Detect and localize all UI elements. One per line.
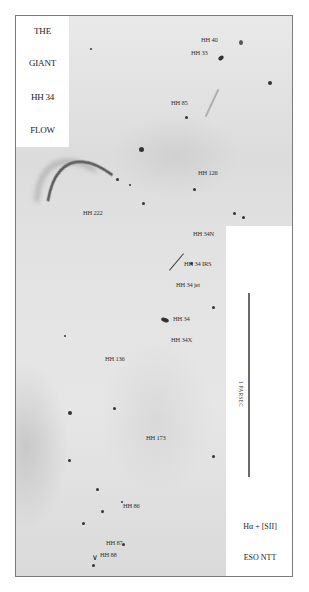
star	[116, 178, 119, 181]
label-hh40: HH 40	[201, 36, 218, 43]
star	[92, 564, 95, 567]
star	[68, 411, 72, 415]
star	[233, 212, 236, 215]
title-line-2: GIANT	[16, 58, 69, 68]
star	[212, 306, 215, 309]
telescope-label: ESO NTT	[226, 553, 293, 562]
star	[113, 407, 116, 410]
label-hh136: HH 136	[105, 355, 125, 362]
star	[242, 216, 245, 219]
star	[142, 202, 145, 205]
label-hh34: HH 34	[173, 315, 190, 322]
star	[193, 188, 196, 191]
star	[96, 488, 99, 491]
hh87-chevron: ∨	[92, 553, 98, 562]
star	[268, 81, 272, 85]
label-hh34n: HH 34N	[193, 230, 214, 237]
label-hh85: HH 85	[171, 99, 188, 106]
star	[185, 116, 188, 119]
label-hh173: HH 173	[146, 434, 166, 441]
label-hh34jet: HH 34 jet	[176, 281, 200, 288]
label-hh86: HH 86	[123, 502, 140, 509]
scale-bar	[248, 293, 250, 477]
astronomical-image-frame: ∨ THE GIANT HH 34 FLOW 1 PARSEC Hα + [SI…	[15, 15, 293, 577]
title-line-3: HH 34	[16, 92, 69, 102]
label-hh126: HH 126	[198, 169, 218, 176]
label-hh34irs: HH 34 IRS	[184, 260, 211, 267]
filter-label: Hα + [SII]	[226, 522, 293, 531]
title-line-4: FLOW	[16, 125, 69, 135]
label-hh88: HH 88	[100, 551, 117, 558]
star	[212, 455, 215, 458]
star	[64, 335, 66, 337]
star	[90, 48, 92, 50]
star	[82, 522, 85, 525]
label-hh34x: HH 34X	[171, 336, 192, 343]
scale-bar-label: 1 PARSEC	[238, 381, 244, 407]
title-panel: THE GIANT HH 34 FLOW	[16, 16, 69, 147]
star	[101, 510, 104, 513]
star	[139, 147, 144, 152]
title-line-1: THE	[16, 26, 69, 36]
label-hh222: HH 222	[83, 209, 103, 216]
label-hh87: HH 87	[106, 539, 123, 546]
star	[129, 184, 131, 186]
star	[68, 459, 71, 462]
hh40-knot	[239, 40, 243, 45]
label-hh33: HH 33	[191, 49, 208, 56]
